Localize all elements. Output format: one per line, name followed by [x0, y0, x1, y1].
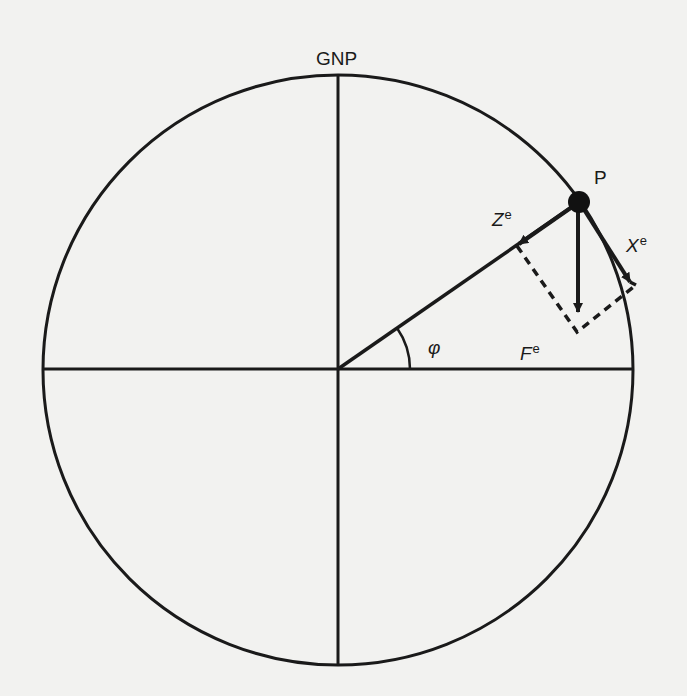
f-vector-label: Fe [520, 342, 540, 363]
diagram-canvas [0, 0, 687, 696]
x-dashed-stub [630, 282, 636, 285]
phi-angle-arc [397, 328, 410, 369]
phi-angle-label: φ [428, 338, 440, 357]
gnp-label: GNP [316, 49, 357, 68]
z-component-arrow [519, 207, 572, 244]
x-component-label: Xe [626, 234, 647, 255]
point-p-label: P [594, 168, 607, 187]
point-p-dot [568, 191, 590, 213]
x-component-arrow [583, 208, 630, 282]
z-component-label: Ze [492, 208, 512, 229]
